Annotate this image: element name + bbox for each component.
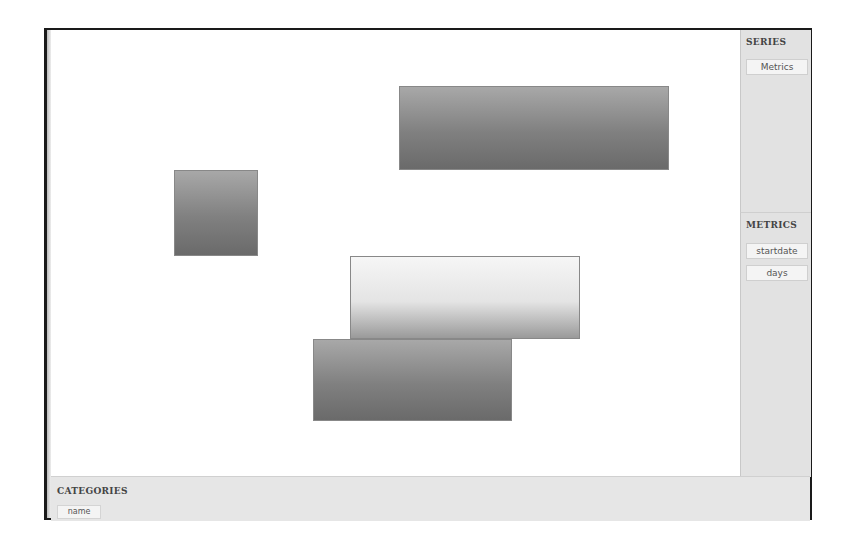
plot-area <box>51 30 740 476</box>
bar-1[interactable] <box>174 170 258 256</box>
metrics-panel: METRICS startdate days <box>740 212 811 477</box>
bar-0[interactable] <box>399 86 669 170</box>
bar-3[interactable] <box>313 339 512 421</box>
chart-frame: SERIES Metrics METRICS startdate days CA… <box>44 28 812 520</box>
categories-title: CATEGORIES <box>57 486 128 496</box>
category-chip-name[interactable]: name <box>57 505 101 519</box>
bar-2[interactable] <box>350 256 580 339</box>
metric-chip-startdate[interactable]: startdate <box>746 243 808 259</box>
series-chip-metrics[interactable]: Metrics <box>746 59 808 75</box>
metric-chip-days[interactable]: days <box>746 265 808 281</box>
categories-panel: CATEGORIES name <box>51 476 810 521</box>
series-panel: SERIES Metrics <box>740 30 811 212</box>
metrics-title: METRICS <box>746 220 797 230</box>
series-title: SERIES <box>746 37 786 47</box>
